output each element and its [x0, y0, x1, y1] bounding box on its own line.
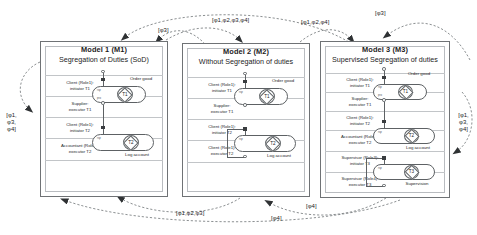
link-v-m3-c [384, 102, 385, 121]
model-title-line1-m2: Model 2 (M2) [183, 48, 309, 57]
arc-label-left-stack: [φ1, φ3, φ4] [3, 112, 20, 133]
model-box-m2[interactable]: Model 2 (M2) Without Segregation of duti… [182, 43, 310, 197]
transaction-kind-m1-t1[interactable]: T1 [117, 87, 133, 102]
model-title-m2: Model 2 (M2) Without Segregation of duti… [183, 48, 309, 67]
arc-label-top-mid-all: [φ1,φ2,φ3,φ4] [212, 17, 249, 24]
transaction-kind-m3-t3[interactable]: T3 [404, 165, 419, 179]
model-title-line1-m3: Model 3 (M3) [321, 46, 449, 55]
model-title-line2-m1: Segregation of Duties (SoD) [41, 56, 167, 64]
tkind-label-m3-t1: T1 [398, 89, 413, 94]
arc-label-top-left-phi3: [φ3] [158, 27, 169, 34]
selfloop-left-m2 [227, 129, 228, 157]
marker-rsp-m3-t3: rsp [378, 168, 382, 171]
role-line2-m3-2: initiator T2 [331, 121, 389, 127]
tkind-label-m3-t2: T2 [404, 134, 419, 139]
tkind-label-m2-t1: T1 [259, 94, 275, 99]
role-line2-m2-1: executor T1 [193, 109, 251, 115]
marker-rsp-m1-t2: rsp [97, 138, 101, 141]
model-title-m1: Model 1 (M1) Segregation of Duties (SoD) [41, 46, 167, 65]
exec-circle-m2-t1 [243, 103, 247, 107]
tkind-label-m2-t2: T2 [265, 141, 281, 146]
marker-rsp-m3-t1: rsp [378, 87, 382, 90]
transaction-kind-m2-t1[interactable]: T1 [259, 89, 275, 104]
arc-label-bottom-123: [φ1,φ2,φ3] [176, 210, 204, 217]
transaction-name-m3-t1: Order good [404, 71, 434, 76]
selfloop-left-m3 [366, 158, 367, 186]
marker-rsp-m2-t1: rsp [239, 92, 243, 95]
arc-label-bottom-phi4-right: [φ4] [306, 203, 317, 210]
role-label-m3-2: Client (Role1): initiator T2 [331, 115, 389, 126]
transaction-kind-m3-t1[interactable]: T1 [398, 85, 413, 99]
role-line2-m3-1: executor T1 [331, 102, 389, 108]
band-m1-4 [45, 160, 163, 194]
tkind-label-m3-t3: T3 [404, 170, 419, 175]
model-title-line1-m1: Model 1 (M1) [41, 46, 167, 55]
transaction-name-m1-t1: Order good [121, 76, 161, 81]
link-v-m3-b [384, 79, 385, 84]
diagram-canvas: [φ3] [φ1,φ2,φ3,φ4] [φ1,φ2,φ4] [φ3] [φ1, … [0, 0, 477, 235]
transaction-kind-m2-t2[interactable]: T2 [265, 136, 281, 151]
model-box-m3[interactable]: Model 3 (M3) Supervised Segregation of d… [320, 41, 450, 198]
transaction-name-m3-t2: Log account [396, 145, 440, 150]
transaction-name-m1-t2: Log account [115, 152, 159, 157]
arc-label-right-stack: [φ1, φ3, φ4] [455, 112, 472, 133]
transaction-kind-m3-t2[interactable]: T2 [404, 129, 419, 143]
tkind-label-m1-t1: T1 [117, 92, 133, 97]
link-v-m1-c [103, 105, 104, 127]
role-line2-m1-2: initiator T2 [51, 128, 109, 134]
transaction-name-m3-t3: Supervision [395, 181, 439, 186]
marker-rsp-m3-t2: rsp [378, 132, 382, 135]
transaction-name-m2-t2: Log account [257, 153, 301, 158]
arc-label-bottom-phi4-mid: [φ4] [271, 215, 282, 222]
marker-rsp-m1-t1: rsp [97, 90, 101, 93]
marker-rsp-m2-t2: rsp [239, 139, 243, 142]
arc-label-top-far-phi3: [φ3] [375, 10, 386, 17]
arc-label-top-right-124: [φ1,φ2,φ4] [301, 19, 329, 26]
model-box-m1[interactable]: Model 1 (M1) Segregation of Duties (SoD)… [40, 41, 168, 197]
marker-pro-m1-t1: pro [97, 98, 101, 101]
band-m2-4 [187, 162, 305, 194]
model-title-m3: Model 3 (M3) Supervised Segregation of d… [321, 46, 449, 65]
model-title-line2-m3: Supervised Segregation of duties [321, 56, 449, 64]
model-title-line2-m2: Without Segregation of duties [183, 58, 309, 66]
transaction-name-m2-t1: Order good [263, 78, 303, 83]
role-line2-m1-1: executor T1 [51, 107, 109, 113]
tkind-label-m1-t2: T2 [123, 140, 139, 145]
transaction-kind-m1-t2[interactable]: T2 [123, 135, 139, 150]
marker-pro-m3-t1: pro [378, 95, 382, 98]
role-label-m1-2: Client (Role1): initiator T2 [51, 122, 109, 133]
